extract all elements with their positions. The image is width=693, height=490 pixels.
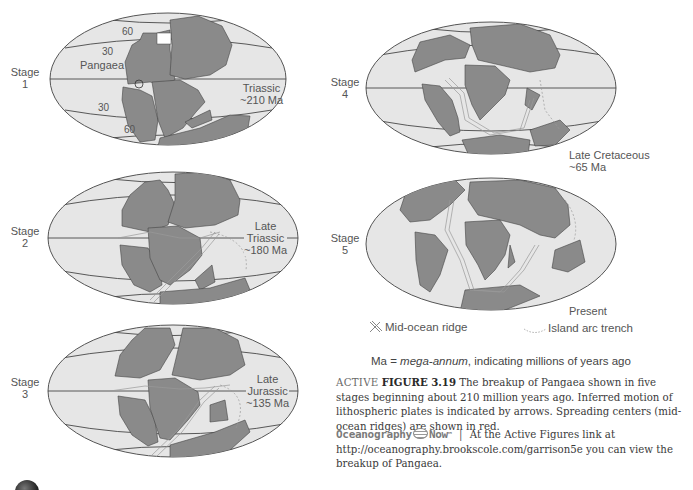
stage-number: 1 <box>0 78 50 90</box>
era-age: ~180 Ma <box>244 244 287 256</box>
stage-label-text: Stage <box>325 232 365 244</box>
stage-number: 3 <box>0 388 50 400</box>
brand-right: Now <box>429 428 448 441</box>
stage-label-text: Stage <box>0 225 50 237</box>
separator: | <box>459 429 462 440</box>
stage-4-map <box>366 22 616 158</box>
era-name: Triassic <box>240 82 283 94</box>
latitude-60-south: 60 <box>124 124 135 136</box>
trademark: ™ <box>448 431 452 439</box>
stage-4-era: Late Cretaceous ~65 Ma <box>569 149 650 173</box>
latitude-60-north: 60 <box>122 26 133 38</box>
era-name: Jurassic <box>246 385 289 397</box>
stage-1-map <box>50 13 287 146</box>
pangaea-label: Pangaea <box>80 59 124 71</box>
ma-term: mega-annum <box>400 355 468 367</box>
legend-island-arc-trench: Island arc trench <box>548 322 633 334</box>
ma-prefix: Ma = <box>371 355 400 367</box>
stage-5-era: Present <box>569 305 607 317</box>
stage-1-label: Stage 1 <box>0 66 50 90</box>
era-age: ~65 Ma <box>569 161 650 173</box>
stage-1-era: Triassic ~210 Ma <box>240 82 283 106</box>
figure-caption: ACTIVE FIGURE 3.19 The breakup of Pangae… <box>336 375 692 434</box>
era-name: Late Cretaceous <box>569 149 650 161</box>
stage-2-label: Stage 2 <box>0 225 50 249</box>
caption-figure-number: FIGURE 3.19 <box>382 376 456 388</box>
stage-label-text: Stage <box>0 66 50 78</box>
era-qualifier: Late <box>244 220 287 232</box>
stage-5-label: Stage 5 <box>325 232 365 256</box>
stage-2-era: Late Triassic ~180 Ma <box>244 220 287 256</box>
era-qualifier: Late <box>246 373 289 385</box>
caption-active-label: ACTIVE <box>336 377 379 388</box>
stage-label-text: Stage <box>0 376 50 388</box>
latitude-30-south: 30 <box>98 102 109 114</box>
stage-3-label: Stage 3 <box>0 376 50 400</box>
stage-4-label: Stage 4 <box>325 76 365 100</box>
era-age: ~210 Ma <box>240 94 283 106</box>
ridge-legend-icon <box>370 321 382 332</box>
ma-suffix: , indicating millions of years ago <box>468 355 631 367</box>
oceanography-now-logo: OceanographyNow™ <box>336 428 452 441</box>
latitude-30-north: 30 <box>102 46 113 58</box>
globe-icon <box>413 428 428 439</box>
stage-number: 5 <box>325 244 365 256</box>
era-name: Triassic <box>244 232 287 244</box>
stage-3-era: Late Jurassic ~135 Ma <box>246 373 289 409</box>
oceanography-now-note: OceanographyNow™ | At the Active Figures… <box>336 428 692 472</box>
legend-mid-ocean-ridge: Mid-ocean ridge <box>385 321 467 333</box>
stage-number: 4 <box>325 88 365 100</box>
era-age: ~135 Ma <box>246 397 289 409</box>
stage-label-text: Stage <box>325 76 365 88</box>
brand-left: Oceanography <box>336 428 412 441</box>
ma-definition: Ma = mega-annum, indicating millions of … <box>371 355 631 367</box>
trench-legend-icon <box>524 329 546 333</box>
era-name: Present <box>569 305 607 317</box>
stage-5-map <box>366 178 616 312</box>
stage-number: 2 <box>0 237 50 249</box>
